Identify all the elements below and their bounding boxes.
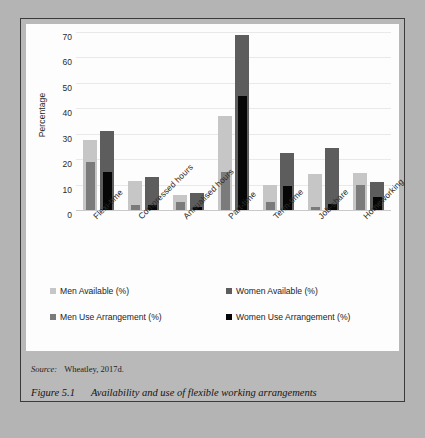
caption-text: Availability and use of flexible working…: [91, 387, 317, 398]
bar-series-container: [76, 32, 391, 210]
legend-item-use-m[interactable]: Men Use Arrangement (%): [50, 312, 162, 322]
x-axis-labels: Flexi-timeCompressed hoursAnnualised hou…: [76, 214, 391, 270]
legend-label: Men Available (%): [60, 286, 129, 296]
caption-number: Figure 5.1: [31, 387, 75, 398]
figure-caption: Figure 5.1Availability and use of flexib…: [31, 387, 317, 398]
bar-group: [346, 32, 391, 210]
source-label: Source:: [31, 364, 57, 374]
bar-men-use: [176, 202, 185, 210]
bar-men-use: [311, 207, 320, 210]
figure-frame: Percentage 010203040506070 Flexi-timeCom…: [20, 18, 405, 402]
legend-swatch-icon: [50, 288, 56, 294]
bar-men-available: [308, 174, 322, 210]
legend-label: Women Available (%): [236, 286, 318, 296]
chart-legend: Men Available (%)Women Available (%)Men …: [50, 286, 390, 338]
legend-label: Men Use Arrangement (%): [60, 312, 162, 322]
bar-men-use: [356, 185, 365, 210]
legend-swatch-icon: [226, 288, 232, 294]
y-axis-label: Percentage: [37, 76, 47, 154]
chart-panel: Percentage 010203040506070 Flexi-timeCom…: [26, 24, 399, 351]
y-axis-ticks: 010203040506070: [48, 32, 72, 210]
bar-men-use: [266, 202, 275, 210]
bar-group: [301, 32, 346, 210]
bar-group: [256, 32, 301, 210]
figure-page: Percentage 010203040506070 Flexi-timeCom…: [0, 0, 425, 438]
source-text: Wheatley, 2017d.: [64, 364, 124, 374]
legend-item-avail-m[interactable]: Men Available (%): [50, 286, 129, 296]
legend-label: Women Use Arrangement (%): [236, 312, 350, 322]
source-line: Source:Wheatley, 2017d.: [31, 364, 124, 374]
legend-item-avail-w[interactable]: Women Available (%): [226, 286, 318, 296]
bar-men-use: [131, 205, 140, 210]
bar-women-use: [238, 96, 247, 210]
legend-swatch-icon: [226, 314, 232, 320]
bar-group: [121, 32, 166, 210]
bar-group: [76, 32, 121, 210]
legend-swatch-icon: [50, 314, 56, 320]
legend-item-use-w[interactable]: Women Use Arrangement (%): [226, 312, 350, 322]
bar-men-use: [86, 162, 95, 210]
